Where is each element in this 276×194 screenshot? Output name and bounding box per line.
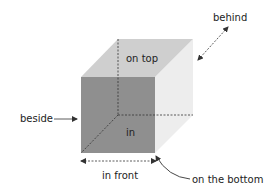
label-on-the-bottom: on the bottom bbox=[192, 174, 263, 185]
label-in: in bbox=[126, 127, 135, 138]
cube-diagram: on top in behind beside in front on the … bbox=[0, 0, 276, 194]
arrow-on-the-bottom bbox=[156, 156, 190, 179]
label-behind: behind bbox=[213, 12, 247, 23]
arrow-behind bbox=[198, 27, 228, 60]
label-in-front: in front bbox=[102, 170, 138, 181]
label-beside: beside bbox=[20, 113, 53, 124]
label-on-top: on top bbox=[126, 53, 158, 64]
